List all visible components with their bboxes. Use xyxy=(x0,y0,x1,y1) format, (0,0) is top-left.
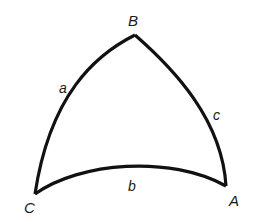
vertex-label-c: C xyxy=(24,199,35,216)
side-a-arc xyxy=(35,35,135,194)
vertex-label-b: B xyxy=(128,12,138,29)
spherical-triangle-diagram: B C A a c b xyxy=(0,0,256,224)
side-label-a: a xyxy=(59,80,67,96)
side-label-b: b xyxy=(128,178,136,194)
vertex-label-a: A xyxy=(228,192,239,209)
side-label-c: c xyxy=(213,107,220,123)
